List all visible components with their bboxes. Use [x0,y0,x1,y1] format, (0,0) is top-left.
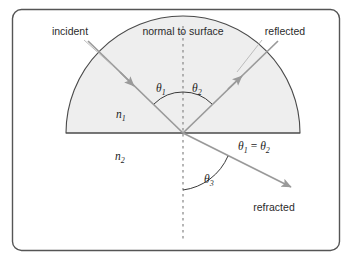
equality-theta2-subscript: 2 [266,146,270,155]
n1-subscript: 1 [122,114,126,123]
incident-label: incident [52,25,88,37]
theta2-subscript: 2 [198,88,202,97]
n2-subscript: 2 [121,156,125,165]
normal-to-surface-label: normal to surface [142,25,223,37]
equality-theta1-subscript: 1 [244,146,248,155]
reflected-label: reflected [265,25,305,37]
refracted-label: refracted [253,201,295,213]
refraction-diagram-figure: incident normal to surface reflected ref… [0,0,352,265]
diagram-canvas: incident normal to surface reflected ref… [0,0,352,265]
theta1-subscript: 1 [162,88,166,97]
equality-operator: = [251,140,258,152]
theta3-subscript: 3 [209,179,214,188]
